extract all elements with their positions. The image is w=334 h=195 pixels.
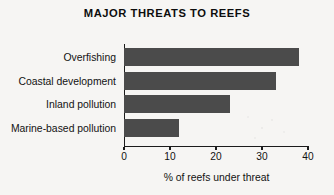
bar [124,95,230,113]
category-label: Overfishing [0,48,122,66]
bar-row [124,95,308,113]
bar-row [124,48,308,66]
category-label-text: Inland pollution [46,99,116,110]
bar [124,72,276,90]
x-axis-tick-mark [307,147,308,150]
category-label: Inland pollution [0,95,122,113]
bar [124,119,179,137]
category-label-text: Overfishing [63,52,116,63]
x-axis-tick-label: 0 [121,151,127,162]
bar [124,48,299,66]
bar-row [124,72,308,90]
x-axis-tick-mark [261,147,262,150]
bar-chart: MAJOR THREATS TO REEFS 010203040 Overfis… [0,0,334,195]
category-label-text: Marine-based pollution [11,122,116,133]
x-axis-tick-label: 40 [302,151,313,162]
x-axis-tick-label: 10 [164,151,175,162]
x-axis-tick-label: 20 [210,151,221,162]
x-axis-tick-mark [169,147,170,150]
plot-area [124,44,308,146]
x-axis-tick-mark [123,147,124,150]
chart-title: MAJOR THREATS TO REEFS [0,7,334,19]
category-label: Marine-based pollution [0,119,122,137]
category-label: Coastal development [0,72,122,90]
bar-row [124,119,308,137]
x-axis-tick-label: 30 [256,151,267,162]
x-axis-tick-mark [215,147,216,150]
x-axis-title: % of reefs under threat [124,172,309,183]
category-label-text: Coastal development [18,75,116,86]
